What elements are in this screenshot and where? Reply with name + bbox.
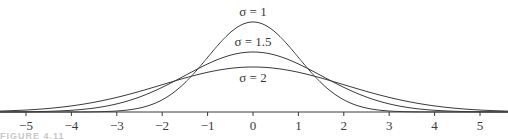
x-axis-ticks: −5−4−3−2−1012345	[19, 112, 483, 133]
x-tick-label: −1	[201, 118, 215, 133]
figure-caption: FIGURE 4.11	[0, 131, 65, 139]
x-tick-label: 1	[295, 118, 302, 133]
x-tick-label: 3	[386, 118, 393, 133]
series-label-0: σ = 1	[239, 4, 266, 19]
series-label-2: σ = 2	[239, 70, 266, 85]
x-tick-label: −3	[110, 118, 124, 133]
x-tick-label: 5	[477, 118, 484, 133]
x-tick-label: −4	[64, 118, 78, 133]
x-tick-label: −2	[155, 118, 169, 133]
normal-density-chart: −5−4−3−2−1012345 σ = 1σ = 1.5σ = 2	[0, 0, 508, 139]
x-tick-label: 4	[431, 118, 438, 133]
x-tick-label: 0	[250, 118, 257, 133]
series-labels: σ = 1σ = 1.5σ = 2	[234, 4, 271, 85]
x-tick-label: 2	[341, 118, 348, 133]
series-label-1: σ = 1.5	[234, 34, 271, 49]
